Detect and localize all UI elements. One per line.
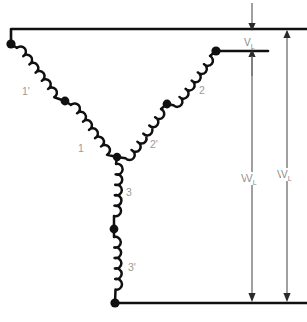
coil-1 <box>65 101 117 157</box>
coil-label-1-prime: 1' <box>22 85 30 97</box>
neutral-junction-node <box>113 153 121 161</box>
top-bus-wire <box>11 29 307 44</box>
tap-node-right <box>163 100 172 109</box>
terminal-node-2 <box>211 46 220 55</box>
wye-connection-schematic: 1' 1 2 2' 3 3' VL VL VL VL <box>0 0 307 322</box>
coil-label-1: 1 <box>78 142 84 154</box>
coil-label-2: 2 <box>199 84 205 96</box>
tap-node-bottom <box>110 225 119 234</box>
coil-label-2-prime: 2' <box>150 138 158 150</box>
coil-1-prime <box>11 44 65 101</box>
terminal-node-3 <box>110 298 119 307</box>
coil-label-3: 3 <box>126 186 132 198</box>
diagram-canvas: 1' 1 2 2' 3 3' VL VL VL VL <box>0 0 307 322</box>
coil-3-prime <box>114 229 122 303</box>
dimension-vl-right <box>283 30 290 302</box>
terminal-node-1 <box>6 39 15 48</box>
coil-3 <box>114 157 123 229</box>
tap-node-left <box>61 97 70 106</box>
coil-2 <box>167 51 216 107</box>
coil-label-3-prime: 3' <box>128 261 136 273</box>
coil-2-prime <box>117 104 167 160</box>
vl-right-subscript-2: L <box>288 175 292 182</box>
vl-middle-subscript-2: L <box>253 179 257 186</box>
vl-top-subscript-2: L <box>251 43 255 50</box>
